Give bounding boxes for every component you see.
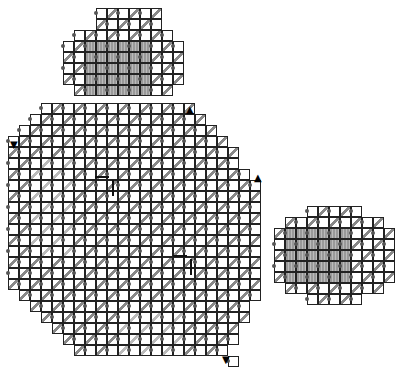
grid-cell[interactable] xyxy=(162,85,173,96)
grid-cell[interactable] xyxy=(250,279,261,290)
grid-cell[interactable] xyxy=(250,191,261,202)
node-dot xyxy=(39,216,43,220)
grid-cell[interactable] xyxy=(228,147,239,158)
node-dot xyxy=(127,88,131,92)
grid-cell[interactable] xyxy=(151,8,162,19)
node-dot xyxy=(349,253,353,257)
l-piece-upper[interactable] xyxy=(95,176,109,178)
node-dot xyxy=(50,293,54,297)
node-dot xyxy=(160,183,164,187)
node-dot xyxy=(149,22,153,26)
node-dot xyxy=(39,150,43,154)
up-triangle-marker-right-icon[interactable]: ▲ xyxy=(254,173,262,183)
node-dot xyxy=(305,275,309,279)
node-dot xyxy=(193,326,197,330)
node-dot xyxy=(371,231,375,235)
node-dot xyxy=(160,161,164,165)
node-dot xyxy=(182,293,186,297)
node-dot xyxy=(215,348,219,352)
node-dot xyxy=(171,326,175,330)
grid-cell[interactable] xyxy=(173,74,184,85)
node-dot xyxy=(72,77,76,81)
node-dot xyxy=(17,194,21,198)
node-dot xyxy=(127,348,131,352)
grid-cell[interactable] xyxy=(217,136,228,147)
node-dot xyxy=(61,326,65,330)
node-dot xyxy=(193,238,197,242)
grid-cell[interactable] xyxy=(373,217,384,228)
node-dot xyxy=(83,216,87,220)
down-triangle-marker-left-icon[interactable]: ▼ xyxy=(10,140,18,150)
node-dot xyxy=(116,11,120,15)
grid-cell[interactable] xyxy=(373,283,384,294)
node-dot xyxy=(94,183,98,187)
node-dot xyxy=(138,293,142,297)
node-dot xyxy=(171,106,175,110)
node-dot xyxy=(72,205,76,209)
node-dot xyxy=(149,128,153,132)
up-triangle-marker-top-icon[interactable]: ▲ xyxy=(186,105,194,115)
node-dot xyxy=(182,249,186,253)
node-dot xyxy=(138,161,142,165)
node-dot xyxy=(61,216,65,220)
grid-cell[interactable] xyxy=(384,272,395,283)
node-dot xyxy=(127,66,131,70)
down-triangle-marker-bottom-icon[interactable]: ▼ xyxy=(222,355,230,365)
node-dot xyxy=(105,44,109,48)
grid-cell[interactable] xyxy=(250,257,261,268)
node-dot xyxy=(39,172,43,176)
grid-cell[interactable] xyxy=(228,323,239,334)
node-dot xyxy=(215,238,219,242)
node-dot xyxy=(94,55,98,59)
node-dot xyxy=(105,150,109,154)
node-dot xyxy=(237,304,241,308)
node-dot xyxy=(294,286,298,290)
node-dot xyxy=(116,315,120,319)
node-dot xyxy=(327,275,331,279)
node-dot xyxy=(204,293,208,297)
node-dot xyxy=(160,249,164,253)
node-dot xyxy=(215,150,219,154)
node-dot xyxy=(294,220,298,224)
grid-cell[interactable] xyxy=(239,312,250,323)
l-piece-lower[interactable] xyxy=(173,255,187,257)
node-dot xyxy=(94,139,98,143)
node-dot xyxy=(171,194,175,198)
grid-cell[interactable] xyxy=(206,125,217,136)
node-dot xyxy=(28,227,32,231)
node-dot xyxy=(382,242,386,246)
grid-cell[interactable] xyxy=(173,52,184,63)
node-dot xyxy=(171,44,175,48)
node-dot xyxy=(327,231,331,235)
node-dot xyxy=(28,183,32,187)
node-dot xyxy=(160,293,164,297)
node-dot xyxy=(149,348,153,352)
grid-cell[interactable] xyxy=(384,228,395,239)
node-dot xyxy=(182,271,186,275)
node-dot xyxy=(149,106,153,110)
node-dot xyxy=(237,194,241,198)
node-dot xyxy=(39,128,43,132)
node-dot xyxy=(215,304,219,308)
node-dot xyxy=(182,315,186,319)
node-dot xyxy=(61,238,65,242)
grid-cell[interactable] xyxy=(195,114,206,125)
node-dot xyxy=(50,183,54,187)
node-dot xyxy=(193,304,197,308)
node-dot xyxy=(193,216,197,220)
grid-cell[interactable] xyxy=(384,250,395,261)
node-dot xyxy=(248,183,252,187)
l-piece-lower[interactable] xyxy=(190,259,192,275)
grid-cell[interactable] xyxy=(250,213,261,224)
node-dot xyxy=(204,315,208,319)
node-dot xyxy=(226,161,230,165)
node-dot xyxy=(94,161,98,165)
node-dot xyxy=(248,205,252,209)
node-dot xyxy=(39,238,43,242)
node-dot xyxy=(83,194,87,198)
node-dot xyxy=(316,264,320,268)
l-piece-upper[interactable] xyxy=(112,180,114,196)
grid-cell[interactable] xyxy=(250,235,261,246)
node-dot xyxy=(50,117,54,121)
node-dot xyxy=(138,315,142,319)
